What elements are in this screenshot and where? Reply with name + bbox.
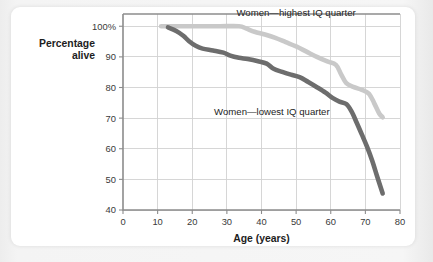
tick-label-x: 80 <box>395 216 405 227</box>
tick-label-y: 80 <box>106 82 116 93</box>
tick-label-x: 60 <box>326 216 336 227</box>
y-axis-title-line-2: alive <box>72 50 95 61</box>
axis-titles: Age (years)Percentagealive <box>39 38 290 244</box>
tick-label-y: 100% <box>92 21 116 32</box>
tick-label-x: 70 <box>360 216 370 227</box>
tick-label-x: 10 <box>152 216 162 227</box>
tick-label-y: 70 <box>106 113 116 124</box>
tick-label-y: 50 <box>106 174 116 185</box>
line-chart: 405060708090100%01020304050607080 Women—… <box>11 7 415 246</box>
tick-label-x: 40 <box>256 216 266 227</box>
tick-label-x: 20 <box>187 216 197 227</box>
figure-card-inner: 405060708090100%01020304050607080 Women—… <box>11 7 415 246</box>
tick-label-x: 30 <box>222 216 232 227</box>
y-axis-title-line-1: Percentage <box>39 38 95 49</box>
series-annotation-highest-iq: Women—highest IQ quarter <box>236 7 356 18</box>
figure-card: 405060708090100%01020304050607080 Women—… <box>11 7 415 246</box>
figure-root: 405060708090100%01020304050607080 Women—… <box>0 0 433 262</box>
tick-label-y: 90 <box>106 51 116 62</box>
tick-label-x: 50 <box>291 216 301 227</box>
tick-label-x: 0 <box>120 216 125 227</box>
x-axis-title: Age (years) <box>233 233 290 244</box>
tick-label-y: 40 <box>106 204 116 215</box>
series-annotation-lowest-iq: Women—lowest IQ quarter <box>214 106 330 117</box>
series-line-highest-iq <box>161 26 383 117</box>
tick-label-y: 60 <box>106 143 116 154</box>
